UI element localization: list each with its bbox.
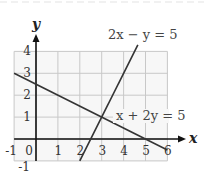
- x-axis-arrow-icon: [178, 136, 186, 143]
- x-tick-label: 6: [164, 144, 172, 158]
- linear-equations-graph: -10123456-11234 2x − y = 5x + 2y = 5 x y: [0, 0, 204, 177]
- equation-label-1: 2x − y = 5: [108, 27, 178, 42]
- x-tick-label: 5: [142, 144, 150, 158]
- y-tick-label: 2: [23, 88, 31, 102]
- y-tick-label: 1: [23, 110, 31, 124]
- y-axis-arrow-icon: [33, 34, 40, 42]
- chart-stage: -10123456-11234 2x − y = 5x + 2y = 5 x y: [0, 0, 204, 177]
- x-tick-label: -1: [5, 144, 17, 158]
- x-tick-label: 4: [120, 144, 128, 158]
- equation-label-2: x + 2y = 5: [116, 108, 186, 123]
- y-axis-label: y: [31, 16, 41, 32]
- y-tick-label: -1: [18, 160, 30, 174]
- y-tick-label: 4: [23, 44, 31, 58]
- x-axis-label: x: [188, 130, 198, 146]
- x-tick-label: 1: [55, 144, 63, 158]
- x-tick-label: 0: [25, 144, 33, 158]
- x-tick-label: 3: [98, 144, 106, 158]
